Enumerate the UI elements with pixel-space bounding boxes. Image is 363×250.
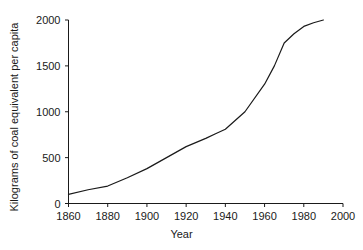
x-axis-tick-label: 1900 bbox=[135, 211, 159, 222]
chart-figure: 0500100015002000 18601880190019201940196… bbox=[0, 0, 363, 250]
y-axis-ticks bbox=[65, 20, 69, 204]
x-axis-ticks bbox=[69, 204, 344, 208]
axis-lines bbox=[68, 20, 343, 204]
x-axis-title: Year bbox=[0, 228, 363, 240]
x-axis-tick-label: 1980 bbox=[292, 211, 316, 222]
y-axis-title: Kilograms of coal equivalent per capita bbox=[8, 17, 20, 217]
x-axis-tick-label: 1920 bbox=[174, 211, 198, 222]
x-axis-tick-label: 1860 bbox=[56, 211, 80, 222]
data-series-line bbox=[69, 20, 324, 194]
x-axis-tick-label: 1880 bbox=[95, 211, 119, 222]
x-axis-tick-label: 1960 bbox=[252, 211, 276, 222]
x-axis-tick-label: 2000 bbox=[331, 211, 355, 222]
x-axis-tick-label: 1940 bbox=[213, 211, 237, 222]
